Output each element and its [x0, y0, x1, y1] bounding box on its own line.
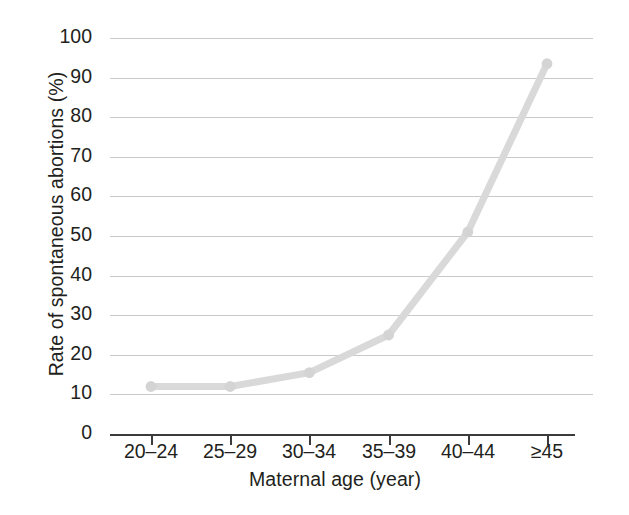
gridline	[110, 394, 593, 395]
gridline	[110, 38, 593, 39]
gridline	[110, 78, 593, 79]
data-point	[542, 58, 553, 69]
y-axis-tick-label: 10	[32, 381, 92, 404]
gridline	[110, 117, 593, 118]
y-axis-tick: 0	[40, 434, 102, 435]
gridline	[110, 355, 593, 356]
x-axis-line	[110, 434, 575, 436]
y-axis-tick: 50	[40, 236, 102, 237]
x-axis-tick-label: ≥45	[492, 440, 602, 463]
gridline	[110, 196, 593, 197]
y-axis-tick-label: 90	[32, 65, 92, 88]
y-axis-tick-label: 80	[32, 104, 92, 127]
gridline	[110, 157, 593, 158]
y-axis-tick: 10	[40, 394, 102, 395]
gridline	[110, 236, 593, 237]
data-point	[146, 381, 157, 392]
y-axis-tick: 80	[40, 117, 102, 118]
y-axis-tick: 30	[40, 315, 102, 316]
y-axis-tick: 40	[40, 276, 102, 277]
gridline	[110, 315, 593, 316]
y-axis-tick-label: 70	[32, 144, 92, 167]
y-axis-tick-label: 40	[32, 263, 92, 286]
gridline	[110, 276, 593, 277]
data-point	[304, 367, 315, 378]
y-axis-tick-label: 0	[32, 421, 92, 444]
y-axis-tick-label: 30	[32, 302, 92, 325]
y-axis-tick: 100	[40, 38, 102, 39]
y-axis-tick: 20	[40, 355, 102, 356]
y-axis-tick: 60	[40, 196, 102, 197]
data-point	[383, 330, 394, 341]
line-chart: Rate of spontaneous abortions (%) 010203…	[0, 0, 629, 515]
series-line	[151, 64, 547, 387]
x-axis-title: Maternal age (year)	[110, 468, 560, 491]
data-point	[225, 381, 236, 392]
y-axis-tick-label: 50	[32, 223, 92, 246]
y-axis-tick-label: 100	[32, 25, 92, 48]
y-axis-tick-label: 20	[32, 342, 92, 365]
series-markers	[146, 58, 553, 392]
y-axis-tick-label: 60	[32, 183, 92, 206]
y-axis-tick: 70	[40, 157, 102, 158]
y-axis-tick: 90	[40, 78, 102, 79]
